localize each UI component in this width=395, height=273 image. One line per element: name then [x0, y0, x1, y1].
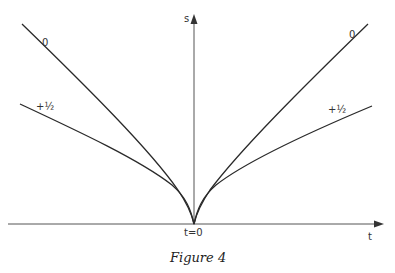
curve-half-label-left: +½ [36, 101, 54, 112]
curve-plus-half [20, 104, 372, 224]
figure-caption: Figure 4 [169, 250, 226, 265]
curve-zero [22, 24, 368, 224]
curve-zero-label-right: 0 [349, 29, 355, 40]
figure-diagram: 0 0 +½ +½ s t t=0 Figure 4 [0, 0, 395, 273]
t-axis-arrow-icon [374, 221, 384, 228]
curve-zero-label-left: 0 [42, 37, 48, 48]
t-axis-label: t [368, 231, 372, 242]
s-axis-label: s [184, 13, 189, 24]
origin-label: t=0 [184, 227, 203, 238]
s-axis-arrow-icon [191, 14, 198, 24]
curve-half-label-right: +½ [328, 104, 346, 115]
